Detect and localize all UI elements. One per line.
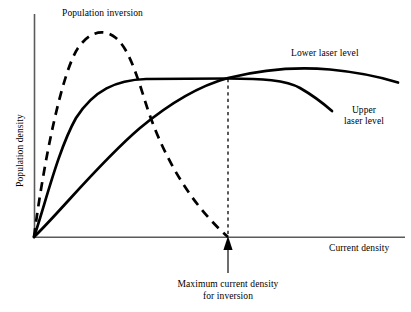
annotation-upper-laser-level-line1: Upper xyxy=(352,105,376,115)
plot-area xyxy=(0,0,411,312)
annotation-maximum-current-density-line2: for inversion xyxy=(203,291,253,301)
y-axis-label: Population density xyxy=(15,96,26,206)
curve-lower-laser-level xyxy=(34,68,398,237)
annotation-maximum-current-density-line1: Maximum current density xyxy=(178,279,279,289)
x-axis-label: Current density xyxy=(329,243,389,254)
annotation-upper-laser-level: Upper laser level xyxy=(333,105,395,127)
annotation-lower-laser-level: Lower laser level xyxy=(291,48,359,59)
curve-upper-laser-level xyxy=(34,79,332,238)
laser-population-density-figure: Population inversion Lower laser level U… xyxy=(0,0,411,312)
annotation-population-inversion: Population inversion xyxy=(62,8,143,19)
max-inversion-arrow-head xyxy=(223,236,232,250)
annotation-maximum-current-density: Maximum current density for inversion xyxy=(154,279,302,302)
annotation-upper-laser-level-line2: laser level xyxy=(344,116,384,126)
